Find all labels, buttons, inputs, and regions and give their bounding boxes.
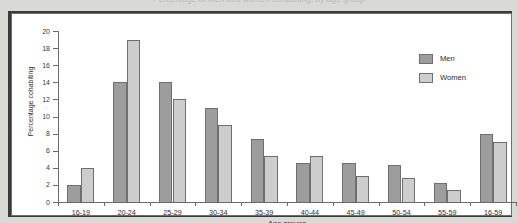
bar-women-40-44 — [310, 156, 324, 202]
bar-men-35-39 — [251, 139, 265, 202]
bar-women-50-54 — [402, 178, 416, 202]
chart-legend: MenWomen — [419, 54, 499, 92]
bar-women-35-39 — [264, 156, 278, 202]
legend-swatch-men — [419, 54, 433, 64]
bar-men-45-49 — [342, 163, 356, 202]
legend-label: Women — [440, 74, 466, 82]
bars-layer — [12, 14, 513, 217]
bar-women-16-19 — [81, 168, 95, 202]
chart-figure: Percentage of men and women cohabiting, … — [0, 0, 518, 223]
bar-women-45-49 — [356, 176, 370, 202]
x-tick — [516, 202, 517, 206]
bar-women-30-34 — [218, 125, 232, 202]
bar-women-25-29 — [173, 99, 187, 202]
bar-men-50-54 — [388, 165, 402, 202]
plot-area: 02468101214161820 16-1920-2425-2930-3435… — [11, 13, 512, 216]
x-axis-title: Age groups — [58, 219, 516, 223]
bar-men-30-34 — [205, 108, 219, 202]
bar-men-40-44 — [296, 163, 310, 202]
legend-item-men: Men — [419, 54, 499, 64]
bar-women-55-59 — [447, 190, 461, 202]
bar-men-20-24 — [113, 82, 127, 202]
bar-women-16-59 — [493, 142, 507, 202]
bar-men-16-19 — [67, 185, 81, 202]
figure-caption-text: Percentage of men and women cohabiting, … — [0, 0, 518, 4]
bar-men-55-59 — [434, 183, 448, 202]
bar-men-25-29 — [159, 82, 173, 202]
bar-men-16-59 — [480, 134, 494, 202]
figure-caption: Percentage of men and women cohabiting, … — [0, 0, 518, 9]
legend-swatch-women — [419, 73, 433, 83]
legend-item-women: Women — [419, 73, 499, 83]
bar-women-20-24 — [127, 40, 141, 202]
legend-label: Men — [440, 55, 455, 63]
